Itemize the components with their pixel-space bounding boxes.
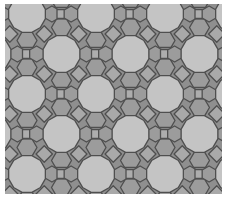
hexagon-tile <box>64 86 78 102</box>
hexagon-tile <box>17 32 37 49</box>
hexagon-tile <box>190 179 210 196</box>
hexagon-tile <box>17 139 37 156</box>
dodecagon-tile <box>147 76 184 113</box>
hexagon-tile <box>0 152 3 169</box>
dodecagon-tile <box>112 36 149 73</box>
dodecagon-tile <box>78 0 115 32</box>
hexagon-tile <box>121 19 141 36</box>
hexagon-tile <box>52 72 72 89</box>
dodecagon-tile <box>78 156 115 193</box>
hexagon-tile <box>190 19 210 36</box>
dodecagon-tile <box>0 196 11 202</box>
hexagon-tile <box>0 72 3 89</box>
hexagon-tile <box>224 32 226 49</box>
hexagon-tile <box>168 126 182 142</box>
hexagon-tile <box>133 166 147 182</box>
diamond-tile <box>36 0 52 2</box>
diamond-tile <box>2 0 18 2</box>
hexagon-tile <box>0 179 3 196</box>
hexagon-tile <box>121 72 141 89</box>
diamond-tile <box>105 0 121 2</box>
hexagon-tile <box>224 139 226 156</box>
tiling-svg <box>0 0 226 202</box>
hexagon-tile <box>155 139 175 156</box>
hexagon-tile <box>190 72 210 89</box>
hexagon-tile <box>0 99 3 116</box>
hexagon-tile <box>121 179 141 196</box>
hexagon-tile <box>86 139 106 156</box>
hexagon-tile <box>202 86 216 102</box>
hexagon-tile <box>52 19 72 36</box>
hexagon-tile <box>0 0 3 9</box>
hexagon-tile <box>190 152 210 169</box>
hexagon-tile <box>155 32 175 49</box>
pattern-swatch <box>0 0 226 202</box>
dodecagon-tile <box>112 196 149 202</box>
dodecagon-tile <box>181 36 218 73</box>
hexagon-tile <box>17 112 37 129</box>
hexagon-tile <box>133 6 147 22</box>
hexagon-tile <box>224 59 226 76</box>
dodecagon-tile <box>181 196 218 202</box>
hexagon-tile <box>121 99 141 116</box>
hexagon-tile <box>121 152 141 169</box>
dodecagon-tile <box>147 0 184 32</box>
hexagon-tile <box>224 192 226 202</box>
hexagon-tile <box>99 46 113 62</box>
hexagon-tile <box>224 112 226 129</box>
dodecagon-tile <box>9 156 46 193</box>
dodecagon-tile <box>78 76 115 113</box>
hexagon-tile <box>155 112 175 129</box>
diamond-tile <box>209 0 225 2</box>
diamond-tile <box>140 0 156 2</box>
hexagon-tile <box>86 59 106 76</box>
hexagon-tile <box>133 86 147 102</box>
hexagon-tile <box>190 99 210 116</box>
hexagon-tile <box>168 46 182 62</box>
dodecagon-tile <box>43 196 80 202</box>
hexagon-tile <box>30 126 44 142</box>
hexagon-tile <box>0 19 3 36</box>
tiling-pattern <box>0 0 226 202</box>
hexagon-tile <box>30 46 44 62</box>
hexagon-tile <box>86 112 106 129</box>
hexagon-tile <box>86 32 106 49</box>
hexagon-tile <box>64 6 78 22</box>
hexagon-tile <box>52 152 72 169</box>
diamond-tile <box>174 0 190 2</box>
dodecagon-tile <box>9 0 46 32</box>
hexagon-tile <box>17 59 37 76</box>
hexagon-tile <box>64 166 78 182</box>
hexagon-tile <box>52 99 72 116</box>
dodecagon-tile <box>43 116 80 153</box>
diamond-tile <box>71 0 87 2</box>
hexagon-tile <box>202 6 216 22</box>
dodecagon-tile <box>112 116 149 153</box>
hexagon-tile <box>155 59 175 76</box>
dodecagon-tile <box>9 76 46 113</box>
dodecagon-tile <box>43 36 80 73</box>
dodecagon-tile <box>147 156 184 193</box>
hexagon-tile <box>202 166 216 182</box>
hexagon-tile <box>52 179 72 196</box>
hexagon-tile <box>99 126 113 142</box>
dodecagon-tile <box>181 116 218 153</box>
